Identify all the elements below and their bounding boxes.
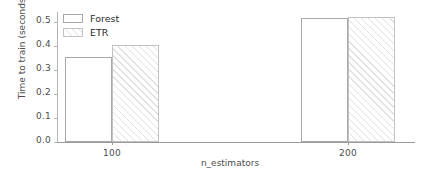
x-axis-title: n_estimators (140, 158, 320, 168)
x-tick-label: 100 (98, 148, 126, 158)
bar-etr-100[interactable] (112, 45, 159, 142)
y-axis-title: Time to train (seconds) (17, 0, 27, 106)
y-tick-mark (54, 142, 57, 143)
legend-swatch-icon-etr (63, 28, 83, 37)
y-tick-label: 0.4 (36, 39, 51, 49)
y-tick-label: 0.3 (36, 63, 51, 73)
legend-item-forest[interactable]: Forest (63, 12, 119, 25)
y-tick-label: 0.1 (36, 111, 51, 121)
bar-chart-figure: 0.5 0.4 0.3 0.2 0.1 0.0 100 2 (0, 0, 429, 178)
x-tick-mark (348, 142, 349, 145)
x-tick-mark (112, 142, 113, 145)
bar-forest-200[interactable] (301, 18, 348, 142)
y-tick-label: 0.5 (36, 15, 51, 25)
legend-item-etr[interactable]: ETR (63, 26, 119, 39)
bar-etr-200[interactable] (348, 17, 395, 142)
legend-swatch-icon-forest (63, 14, 83, 23)
bar-forest-100[interactable] (65, 57, 112, 142)
legend-label-forest: Forest (90, 13, 119, 24)
y-tick-label: 0.2 (36, 87, 51, 97)
chart-legend: Forest ETR (60, 10, 123, 42)
x-tick-label: 200 (334, 148, 362, 158)
y-tick-label: 0.0 (36, 135, 51, 145)
legend-label-etr: ETR (90, 27, 108, 38)
x-axis-line (57, 142, 415, 143)
